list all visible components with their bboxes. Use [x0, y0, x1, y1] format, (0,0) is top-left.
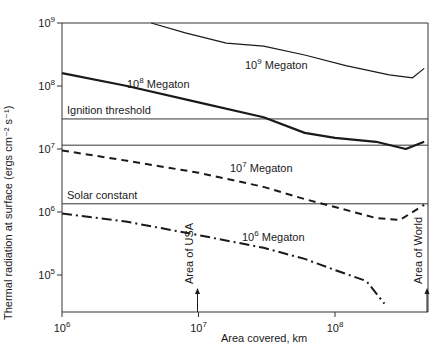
series-label: 106 Megaton [242, 229, 305, 243]
y-tick-label: 105 [38, 267, 55, 281]
y-tick-label: 107 [38, 141, 55, 155]
arrow-head-icon [425, 288, 430, 294]
y-tick-label: 109 [38, 15, 55, 29]
x-tick-label: 108 [327, 320, 344, 334]
y-tick-label: 106 [38, 204, 55, 218]
x-tick-label: 106 [54, 320, 71, 334]
annotation-label: Area of USA [183, 222, 195, 284]
y-axis-label: Thermal radiation at surface (ergs cm⁻² … [2, 106, 15, 320]
annotation-label: Area of World [412, 217, 424, 284]
arrow-head-icon [195, 288, 200, 294]
reference-label: Solar constant [67, 189, 137, 201]
series-label: 107 Megaton [230, 160, 293, 174]
chart-plot: 109108107106105106107108Ignition thresho… [0, 0, 442, 360]
reference-label: Ignition threshold [67, 104, 151, 116]
series-label: 109 Megaton [245, 57, 308, 71]
chart-container: 109108107106105106107108Ignition thresho… [0, 0, 442, 360]
x-axis-label: Area covered, km [221, 332, 307, 344]
x-tick-label: 107 [190, 320, 207, 334]
series-label: 108 Megaton [127, 76, 190, 90]
series-line [62, 213, 384, 303]
y-tick-label: 108 [38, 78, 55, 92]
